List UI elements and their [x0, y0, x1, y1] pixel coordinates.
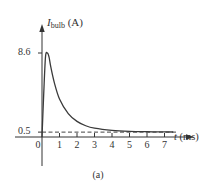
y-axis-label-unit: (A) [68, 16, 83, 28]
x-tick-label: 2 [75, 140, 80, 150]
y-tick-label: 8.6 [18, 47, 31, 57]
x-tick-label: 0 [36, 140, 41, 150]
x-axis-label: t (ms) [174, 132, 199, 143]
axes [15, 24, 194, 166]
x-tick-label: 7 [162, 140, 167, 150]
figure-caption: (a) [92, 170, 103, 180]
x-tick-label: 3 [92, 140, 97, 150]
y-tick-label: 0.5 [18, 126, 31, 136]
x-axis-label-unit: (ms) [180, 131, 199, 142]
y-axis-label-subscript: bulb [51, 21, 65, 30]
x-tick-label: 4 [110, 140, 115, 150]
y-axis-arrow-icon [39, 24, 44, 32]
x-ticks [60, 133, 165, 137]
x-axis-label-var: t [174, 131, 177, 142]
y-ticks [38, 53, 42, 132]
x-tick-label: 5 [127, 140, 132, 150]
current-curve [42, 52, 173, 137]
x-tick-label: 1 [57, 140, 62, 150]
x-tick-label: 6 [145, 140, 150, 150]
chart-plot [0, 0, 212, 192]
y-axis-label: Ibulb (A) [47, 17, 83, 30]
